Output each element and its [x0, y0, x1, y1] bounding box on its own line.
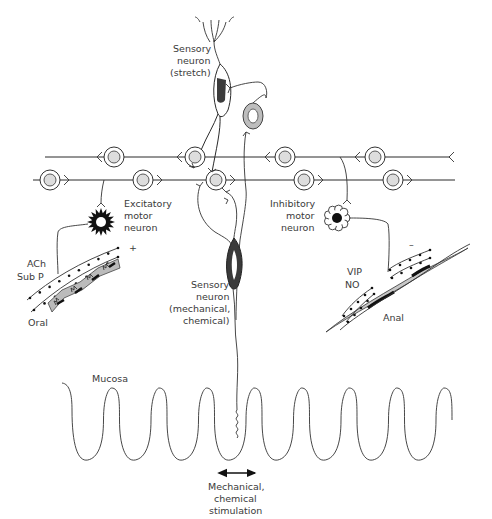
varicosity-dot — [29, 297, 32, 300]
varicosity-dot — [429, 257, 432, 260]
interneuron-ganglion — [236, 95, 266, 320]
label-anal: Anal — [383, 312, 404, 323]
label-line: Excitatory — [124, 198, 172, 209]
varicosity-dot — [58, 280, 61, 283]
varicosity-dot — [360, 307, 363, 310]
varicosity-dot — [364, 294, 367, 297]
excitatory-motor-neuron — [57, 180, 115, 274]
label-vip-no: VIP NO — [345, 266, 362, 290]
varicosity-dot — [48, 286, 51, 289]
label-inhibitory-motor: Inhibitory motor neuron — [270, 198, 316, 233]
varicosity-dot — [78, 269, 81, 272]
ganglion — [365, 147, 385, 167]
varicosity-dot — [399, 264, 402, 267]
inhibitory-sign: – — [409, 239, 414, 250]
sensory-stretch-neuron — [194, 17, 267, 172]
label-line: Sensory — [173, 43, 212, 54]
ganglion — [185, 147, 205, 167]
varicosity-dot — [409, 259, 412, 262]
varicosity-dot — [107, 252, 110, 255]
myenteric-plexus-lower — [33, 170, 455, 190]
varicosity-dot — [347, 321, 350, 324]
varicosity-dot — [343, 315, 346, 318]
label-oral: Oral — [28, 317, 48, 328]
label-line: stimulation — [209, 505, 262, 516]
label-line: ACh — [27, 258, 46, 269]
varicosity-dot — [419, 262, 422, 265]
label-line: motor — [286, 210, 315, 221]
spiky-star-cell-icon — [87, 208, 115, 236]
label-excitatory-motor: Excitatory motor neuron — [124, 198, 172, 233]
varicosity-dot — [43, 302, 46, 305]
label-line: neuron — [196, 291, 229, 302]
label-line: NO — [345, 279, 360, 290]
myenteric-plexus-upper — [45, 147, 454, 167]
varicosity-dot — [391, 277, 394, 280]
ganglion — [40, 170, 60, 190]
label-line: Sub P — [17, 271, 44, 282]
label-line: chemical — [214, 493, 257, 504]
varicosity-dot — [117, 247, 120, 250]
label-line: neuron — [124, 222, 157, 233]
ganglion — [104, 147, 124, 167]
nucleus-dark — [217, 78, 226, 103]
varicosity-dot — [373, 293, 376, 296]
ganglion — [206, 170, 226, 190]
label-mucosa: Mucosa — [92, 373, 128, 384]
varicosity-dot — [429, 249, 432, 252]
label-line: neuron — [177, 55, 210, 66]
varicosity-dot — [410, 267, 413, 270]
varicosity-dot — [117, 256, 120, 259]
varicosity-dot — [400, 272, 403, 275]
label-line: neuron — [281, 222, 314, 233]
varicosity-dot — [419, 254, 422, 257]
label-stimulation: Mechanical, chemical stimulation — [208, 481, 264, 516]
label-line: chemical) — [183, 315, 229, 326]
ganglion — [275, 147, 295, 167]
label-line: (mechanical, — [169, 303, 230, 314]
varicosity-dot — [33, 309, 36, 312]
label-line: motor — [124, 210, 153, 221]
varicosity-dot — [68, 275, 71, 278]
varicosity-dot — [366, 300, 369, 303]
label-sensory-stretch: Sensory neuron (stretch) — [170, 43, 212, 78]
ganglion — [383, 170, 403, 190]
flower-cell-icon — [325, 205, 351, 231]
varicosity-dot — [97, 258, 100, 261]
label-line: (stretch) — [170, 67, 211, 78]
varicosity-dot — [389, 269, 392, 272]
enteric-reflex-diagram: Sensory neuron (stretch) Excitatory moto… — [0, 0, 492, 519]
excitatory-sign: + — [129, 242, 137, 253]
label-line: VIP — [347, 266, 362, 277]
label-line: Inhibitory — [270, 198, 316, 209]
mucosa — [62, 383, 452, 460]
varicosity-dot — [350, 308, 353, 311]
label-sensory-mechanical: Sensory neuron (mechanical, chemical) — [169, 279, 230, 326]
label-ach-subp: ACh Sub P — [17, 258, 46, 282]
varicosity-dot — [371, 287, 374, 290]
sensory-mechanical-neuron — [227, 238, 243, 438]
label-line: Sensory — [191, 279, 230, 290]
varicosity-dot — [87, 263, 90, 266]
label-line: Mechanical, — [208, 481, 264, 492]
inhibitory-motor-neuron — [325, 157, 390, 272]
ganglion — [133, 170, 153, 190]
varicosity-dot — [39, 291, 42, 294]
varicosity-dot — [353, 314, 356, 317]
ganglion — [294, 170, 314, 190]
varicosity-dot — [357, 301, 360, 304]
